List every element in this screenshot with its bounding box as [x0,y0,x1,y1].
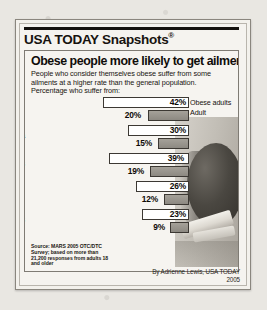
byline-year: 2005 [226,276,240,283]
bar-value-arthritis-adult: 19% [128,166,144,177]
chart-group-hypertension: Hypertension/ high blood pressure 42% 20… [29,97,189,125]
byline-credit: By Adrienne Lewis, USA TODAY [152,268,240,275]
brand-title-text: USA TODAY Snapshots [24,32,168,47]
bar-row-insomnia-adult: 15% [103,138,189,149]
category-label-insomnia: Insomnia [24,132,29,141]
bar-value-depression-obese: 26% [170,181,186,192]
bar-row-depression-adult: 12% [103,194,189,205]
infographic-card: USA TODAY Snapshots® Obese people more l… [15,19,251,290]
bar-value-diabetes-adult: 9% [153,222,165,233]
bar-chart: Hypertension/ high blood pressure 42% 20… [29,97,189,237]
bar-diabetes-adult [170,222,189,233]
chart-group-depression: Depression 26% 12% [29,181,189,209]
snapshot-infographic: USA TODAY Snapshots® Obese people more l… [0,0,267,310]
chart-group-diabetes: Diabetes 23% 9% [29,209,189,237]
bar-value-insomnia-adult: 15% [136,138,152,149]
bar-row-diabetes-adult: 9% [103,222,189,233]
bar-value-insomnia-obese: 30% [170,125,186,136]
category-label-depression: Depression [24,188,29,197]
bar-arthritis-adult [150,166,189,177]
category-label-arthritis: Arthritis [24,160,29,169]
byline: By Adrienne Lewis, USA TODAY 2005 [90,268,240,283]
category-label-diabetes: Diabetes [24,216,29,225]
page-title: Obese people more likely to get ailments [31,55,235,68]
bar-value-diabetes-obese: 23% [170,209,186,220]
subtitle-text: People who consider themselves obese suf… [31,70,227,96]
bar-value-hypertension-adult: 20% [125,110,141,121]
chart-group-insomnia: Insomnia 30% 15% [29,125,189,153]
bar-value-depression-adult: 12% [142,194,158,205]
bar-row-hypertension-adult: 20% [103,110,189,121]
bar-row-depression-obese: 26% [103,181,189,192]
bar-track-hypertension: 42% 20% [103,97,189,121]
registered-mark-icon: ® [168,31,174,40]
bar-track-arthritis: 39% 19% [103,153,189,177]
legend-label-obese-adults: Obese adults [190,99,231,107]
bar-value-arthritis-obese: 39% [168,153,184,164]
bar-depression-adult [164,194,189,205]
content-panel: Obese people more likely to get ailments… [24,50,239,272]
brand-title: USA TODAY Snapshots® [24,31,242,47]
source-note: Source: MARS 2005 OTC/DTC Survey; based … [31,244,113,267]
legend-item-obese-adults: Obese adults [182,99,234,107]
bar-track-diabetes: 23% 9% [103,209,189,233]
bar-track-depression: 26% 12% [103,181,189,205]
bar-row-hypertension-obese: 42% [103,97,189,108]
bar-insomnia-adult [158,138,189,149]
bar-row-diabetes-obese: 23% [103,209,189,220]
bar-row-arthritis-obese: 39% [103,153,189,164]
bar-hypertension-adult [148,110,189,121]
bar-row-insomnia-obese: 30% [103,125,189,136]
chart-group-arthritis: Arthritis 39% 19% [29,153,189,181]
bar-value-hypertension-obese: 42% [170,97,186,108]
bar-track-insomnia: 30% 15% [103,125,189,149]
bar-row-arthritis-adult: 19% [103,166,189,177]
category-label-hypertension: Hypertension/ high blood pressure [24,93,29,110]
brand-top-rule [24,27,239,30]
illustration-floor [175,241,239,267]
